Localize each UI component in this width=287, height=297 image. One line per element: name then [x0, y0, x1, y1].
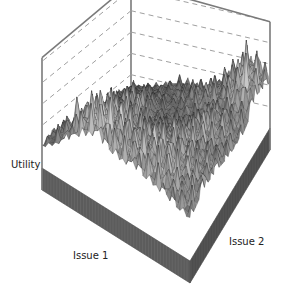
- y-axis-label: Issue 2: [229, 236, 264, 247]
- z-axis-label: Utility: [11, 159, 40, 170]
- surface-plot-area: [0, 0, 287, 297]
- x-axis-label: Issue 1: [73, 250, 108, 261]
